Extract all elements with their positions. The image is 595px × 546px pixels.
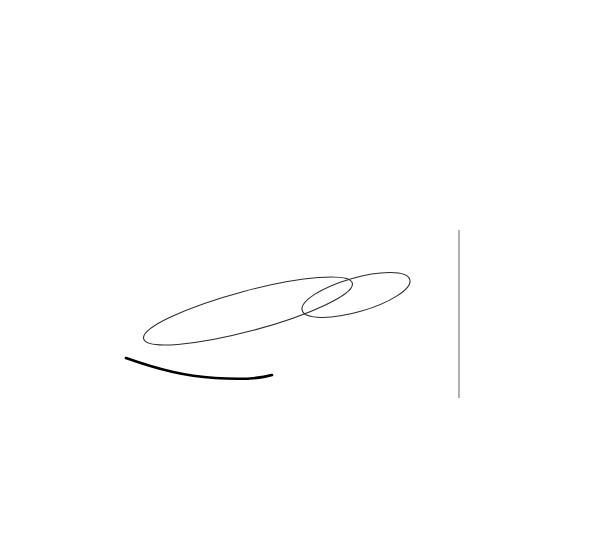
giants-ellipse [297, 263, 414, 327]
population-annotations [126, 263, 415, 379]
main-sequence-curve [126, 358, 272, 379]
stellar-luminosity-3d-histogram [0, 0, 595, 546]
supergiants-ellipse [139, 264, 358, 359]
chart-figure [0, 0, 595, 546]
